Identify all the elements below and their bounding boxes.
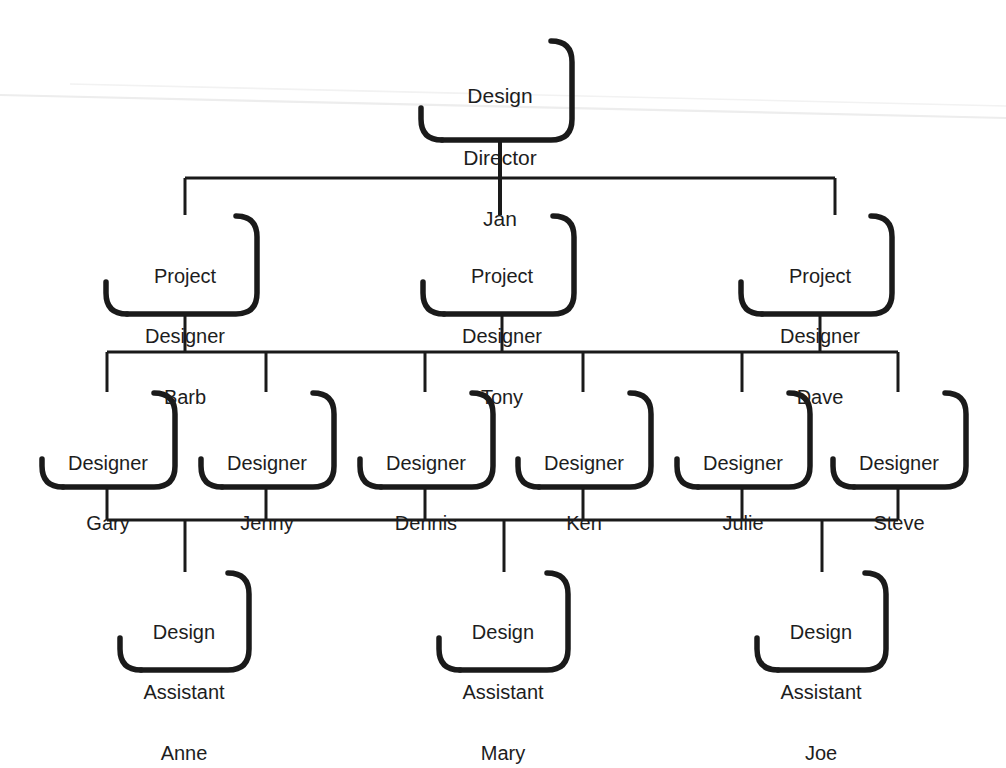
node-bracket-dennis (360, 393, 493, 487)
scan-artifact (0, 84, 1006, 118)
node-bracket-barb (106, 216, 257, 314)
node-bracket-dave (741, 216, 892, 314)
node-bracket-ken (518, 393, 651, 487)
node-bracket-joe (757, 573, 886, 670)
node-mary-person-name: Mary (438, 742, 568, 765)
node-bracket-anne (120, 573, 249, 670)
node-bracket-mary (439, 573, 568, 670)
connector-director-to-projects (185, 140, 835, 215)
connector-designers-to-assistants (107, 487, 898, 572)
node-bracket-gary (42, 393, 175, 487)
node-anne-person-name: Anne (119, 742, 249, 765)
node-joe-person-name: Joe (756, 742, 886, 765)
node-bracket-steve (833, 393, 966, 487)
node-bracket-tony (423, 216, 574, 314)
connector-projects-to-designers (107, 314, 898, 392)
node-bracket-julie (677, 393, 810, 487)
node-bracket-jan (421, 41, 572, 140)
node-bracket-jenny (201, 393, 334, 487)
